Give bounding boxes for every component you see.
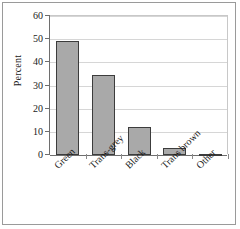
y-axis-tick-mark (45, 85, 50, 86)
y-axis-tick-label: 10 (5, 125, 43, 136)
y-axis-tick-mark (45, 154, 50, 155)
y-axis-tick-label: 20 (5, 102, 43, 113)
x-axis-tick-mark (121, 154, 122, 159)
chart-figure: Percent 0102030405060 GreenTrans-greyBla… (2, 2, 236, 225)
y-axis-tick-label: 30 (5, 79, 43, 90)
gridline (50, 16, 227, 17)
x-axis-tick-mark (86, 154, 87, 159)
y-axis-tick-mark (45, 15, 50, 16)
y-axis-tick-label: 50 (5, 33, 43, 44)
y-axis-tick-label: 60 (5, 10, 43, 21)
x-axis-tick-mark (228, 154, 229, 159)
gridline (50, 39, 227, 40)
y-axis-tick-mark (45, 38, 50, 39)
bar (56, 41, 79, 155)
x-axis-tick-mark (192, 154, 193, 159)
y-axis-tick-mark (45, 131, 50, 132)
x-axis-tick-mark (157, 154, 158, 159)
y-axis-tick-label: 40 (5, 56, 43, 67)
y-axis-tick-mark (45, 108, 50, 109)
y-axis-tick-labels: 0102030405060 (3, 3, 43, 229)
y-axis-tick-label: 0 (5, 149, 43, 160)
y-axis-tick-mark (45, 61, 50, 62)
